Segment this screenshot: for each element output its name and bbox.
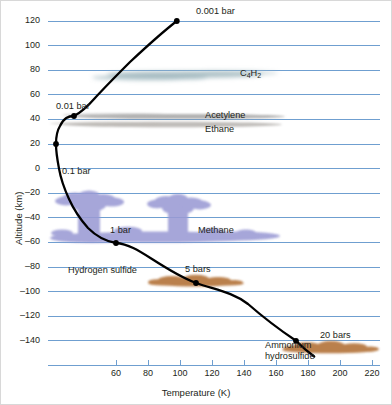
y-tick-60: 60 [4, 89, 40, 99]
c4h2-sub-2: 2 [257, 72, 261, 79]
y-tick-20: 20 [4, 138, 40, 148]
y-axis-title: Altitude (km) [13, 192, 24, 245]
c4h2-sub-4: 4 [247, 72, 251, 79]
x-axis-ticks [116, 360, 372, 365]
cloud-layer-ethane [50, 122, 282, 128]
y-tick-40: 40 [4, 113, 40, 123]
atmosphere-temperature-profile-figure: 120 100 80 60 40 20 0 –20 –40 –60 –80 –1… [0, 0, 392, 405]
y-tick-neg100: –100 [4, 286, 40, 296]
annotation-001-bar: 0.01 bar [56, 101, 90, 112]
y-tick-neg140: –140 [4, 335, 40, 345]
annotation-1-bar: 1 bar [110, 225, 131, 236]
marker-dot-0001-bar [174, 18, 180, 24]
pressure-marker-dots [53, 18, 299, 344]
marker-dot-001-bar [71, 113, 77, 119]
cloud-layer-methane [50, 191, 280, 244]
marker-dot-01-bar [53, 141, 59, 147]
chart-plot-area [0, 0, 392, 405]
ammonium-line-1: Ammonium [265, 340, 315, 351]
annotation-20-bars: 20 bars [320, 330, 351, 341]
x-tick-220: 220 [352, 368, 392, 378]
y-tick-120: 120 [4, 15, 40, 25]
x-axis-title: Temperature (K) [0, 387, 392, 398]
label-hydrogen-sulfide: Hydrogen sulfide [68, 265, 137, 276]
marker-dot-1-bar [113, 240, 119, 246]
y-tick-neg120: –120 [4, 310, 40, 320]
y-tick-100: 100 [4, 40, 40, 50]
annotation-0001-bar: 0.001 bar [196, 6, 235, 17]
label-c4h2: C4H2 [240, 68, 261, 79]
y-tick-0: 0 [4, 163, 40, 173]
y-tick-neg80: –80 [4, 261, 40, 271]
label-acetylene: Acetylene [205, 110, 245, 121]
marker-dot-5-bars [193, 280, 199, 286]
annotation-01-bar: 0.1 bar [62, 166, 91, 177]
label-methane: Methane [198, 225, 234, 236]
c4h2-c: C [240, 68, 247, 78]
cloud-layer-acetylene [62, 113, 285, 119]
label-ammonium-hydrosulfide: Ammonium hydrosulfide [265, 340, 315, 362]
label-ethane: Ethane [205, 124, 234, 135]
ammonium-line-2: hydrosulfide [265, 351, 315, 362]
y-tick-80: 80 [4, 64, 40, 74]
annotation-5-bars: 5 bars [185, 264, 211, 275]
